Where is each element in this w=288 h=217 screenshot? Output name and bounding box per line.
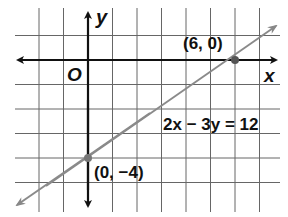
x-axis-label: x [263,65,276,86]
coordinate-plane: y x O (6, 0) (0, −4) 2x − 3y = 12 [0,0,288,217]
equation-label: 2x − 3y = 12 [163,115,258,134]
point-0-neg4 [84,154,92,162]
grid [15,8,280,212]
point-label-6-0: (6, 0) [183,34,223,53]
point-label-0-neg4: (0, −4) [94,163,144,182]
point-6-0 [231,56,239,64]
equation-line-left [17,113,150,205]
origin-label: O [67,64,82,85]
y-axis-label: y [95,6,108,28]
